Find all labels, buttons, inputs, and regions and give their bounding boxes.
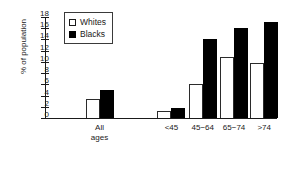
bar-chart: % of population 024681012141618 Allages<…	[0, 0, 286, 172]
y-axis-tick: 4	[0, 96, 49, 97]
y-axis-tick: 10	[0, 62, 49, 63]
legend-swatch-whites-icon	[69, 19, 76, 26]
bar-blacks-0	[100, 90, 114, 118]
bar-blacks-3	[234, 28, 248, 118]
y-axis-tick: 16	[0, 28, 49, 29]
bar-whites-3	[220, 57, 234, 118]
bar-whites-4	[250, 63, 264, 118]
bar-blacks-2	[203, 39, 217, 118]
legend-label-blacks: Blacks	[80, 29, 105, 39]
chart-legend: Whites Blacks	[64, 12, 113, 44]
y-axis-tick: 8	[0, 73, 49, 74]
x-axis-tick-label: >74	[234, 123, 286, 133]
legend-label-whites: Whites	[80, 17, 106, 27]
x-axis-line	[45, 118, 277, 119]
y-axis-tick: 14	[0, 39, 49, 40]
bar-whites-2	[189, 84, 203, 118]
y-axis-tick: 6	[0, 84, 49, 85]
y-axis-tick: 12	[0, 51, 49, 52]
y-axis-tick: 0	[0, 118, 49, 119]
legend-item-blacks: Blacks	[69, 28, 106, 40]
bar-blacks-1	[171, 108, 185, 118]
legend-item-whites: Whites	[69, 16, 106, 28]
bar-whites-1	[157, 111, 171, 118]
legend-swatch-blacks-icon	[69, 31, 76, 38]
y-axis-tick: 2	[0, 107, 49, 108]
y-axis-tick-label: 18	[17, 13, 49, 14]
x-axis-tick-label: Allages	[70, 123, 130, 143]
y-axis-tick: 18	[0, 17, 49, 18]
bar-whites-0	[86, 99, 100, 118]
bar-blacks-4	[264, 22, 278, 119]
